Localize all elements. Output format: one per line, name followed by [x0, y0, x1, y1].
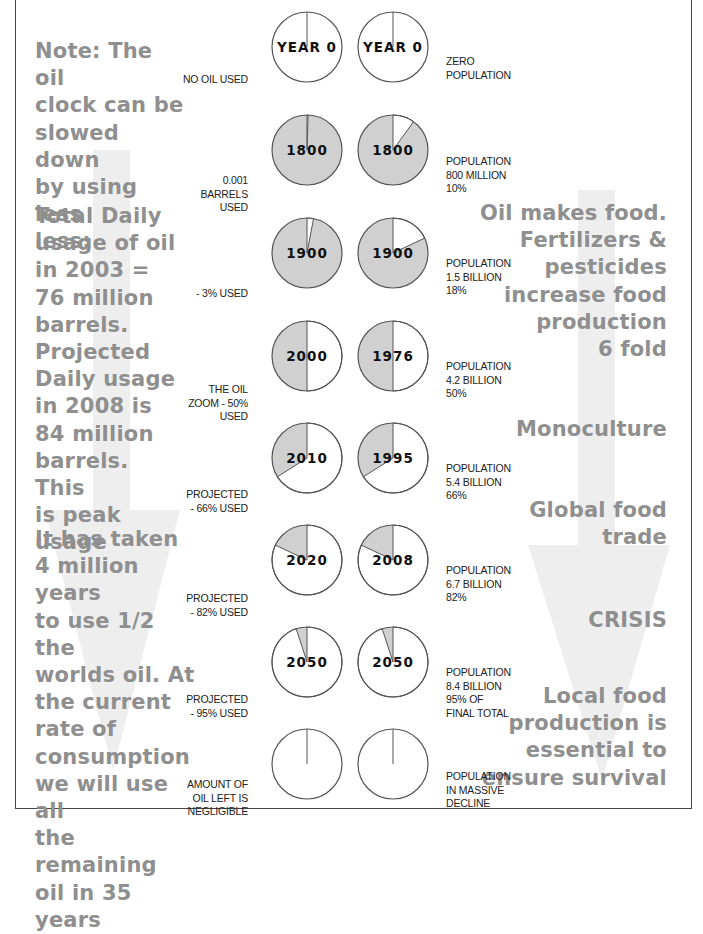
label-line: 66%	[446, 489, 556, 503]
label-line: - 3% USED	[128, 287, 248, 301]
label-line: THE OIL	[128, 383, 248, 397]
label-line: USED	[128, 410, 248, 424]
oil-year-label: 2000	[271, 348, 343, 364]
population-label: POPULATION6.7 BILLION82%	[446, 564, 556, 605]
label-line: NEGLIGIBLE	[128, 805, 248, 819]
population-label: POPULATIONIN MASSIVEDECLINE	[446, 770, 556, 811]
population-year-label: YEAR 0	[357, 39, 429, 55]
global-trade-text: Global food trade	[467, 497, 667, 551]
label-line: 10%	[446, 182, 556, 196]
population-pie-icon	[357, 728, 429, 800]
label-line: POPULATION	[446, 257, 556, 271]
population-label: POPULATION8.4 BILLION95% OFFINAL TOTAL	[446, 666, 556, 720]
oil-usage-label: PROJECTED- 66% USED	[128, 488, 248, 515]
label-line: 95% OF	[446, 693, 556, 707]
oil-usage-label: 0.001BARRELSUSED	[128, 174, 248, 215]
label-line: POPULATION	[446, 462, 556, 476]
population-year-label: 1900	[357, 245, 429, 261]
label-line: FINAL TOTAL	[446, 707, 556, 721]
oil-year-label: 2020	[271, 552, 343, 568]
label-line: 4.2 BILLION	[446, 374, 556, 388]
population-year-label: 1800	[357, 142, 429, 158]
oil-year-label: 1800	[271, 142, 343, 158]
population-year-label: 1976	[357, 348, 429, 364]
label-line: 1.5 BILLION	[446, 271, 556, 285]
population-label: POPULATION5.4 BILLION66%	[446, 462, 556, 503]
label-line: USED	[128, 201, 248, 215]
label-line: OIL LEFT IS	[128, 792, 248, 806]
label-line: 8.4 BILLION	[446, 680, 556, 694]
label-line: POPULATION	[446, 69, 556, 83]
population-label: ZEROPOPULATION	[446, 55, 556, 82]
population-year-label: 2008	[357, 552, 429, 568]
label-line: POPULATION	[446, 666, 556, 680]
label-line: ZOOM - 50%	[128, 397, 248, 411]
label-line: PROJECTED	[128, 488, 248, 502]
oil-usage-label: AMOUNT OFOIL LEFT ISNEGLIGIBLE	[128, 778, 248, 819]
label-line: - 95% USED	[128, 707, 248, 721]
label-line: NO OIL USED	[128, 73, 248, 87]
label-line: - 66% USED	[128, 502, 248, 516]
label-line: PROJECTED	[128, 693, 248, 707]
population-label: POPULATION4.2 BILLION50%	[446, 360, 556, 401]
label-line: POPULATION	[446, 770, 556, 784]
time-taken-text: It has taken 4 million years to use 1/2 …	[35, 526, 195, 934]
label-line: DECLINE	[446, 797, 556, 811]
oil-year-label: 2010	[271, 450, 343, 466]
oil-usage-label: THE OILZOOM - 50%USED	[128, 383, 248, 424]
population-clock-pie	[357, 728, 429, 800]
population-year-label: 2050	[357, 654, 429, 670]
oil-usage-label: NO OIL USED	[128, 73, 248, 87]
crisis-text: CRISIS	[467, 607, 667, 634]
label-line: 5.4 BILLION	[446, 476, 556, 490]
label-line: POPULATION	[446, 155, 556, 169]
population-label: POPULATION800 MILLION10%	[446, 155, 556, 196]
oil-usage-label: PROJECTED- 82% USED	[128, 592, 248, 619]
monoculture-text: Monoculture	[467, 416, 667, 443]
label-line: 800 MILLION	[446, 169, 556, 183]
label-line: 82%	[446, 591, 556, 605]
label-line: POPULATION	[446, 360, 556, 374]
label-line: 0.001	[128, 174, 248, 188]
label-line: ZERO	[446, 55, 556, 69]
oil-year-label: 2050	[271, 654, 343, 670]
oil-year-label: YEAR 0	[271, 39, 343, 55]
label-line: 50%	[446, 387, 556, 401]
label-line: IN MASSIVE	[446, 784, 556, 798]
population-label: POPULATION1.5 BILLION18%	[446, 257, 556, 298]
label-line: POPULATION	[446, 564, 556, 578]
oil-clock-pie	[271, 728, 343, 800]
oil-year-label: 1900	[271, 245, 343, 261]
label-line: 6.7 BILLION	[446, 578, 556, 592]
label-line: PROJECTED	[128, 592, 248, 606]
label-line: - 82% USED	[128, 606, 248, 620]
oil-usage-label: - 3% USED	[128, 287, 248, 301]
label-line: BARRELS	[128, 188, 248, 202]
oil-usage-label: PROJECTED- 95% USED	[128, 693, 248, 720]
label-line: 18%	[446, 284, 556, 298]
label-line: AMOUNT OF	[128, 778, 248, 792]
population-year-label: 1995	[357, 450, 429, 466]
oil-pie-icon	[271, 728, 343, 800]
